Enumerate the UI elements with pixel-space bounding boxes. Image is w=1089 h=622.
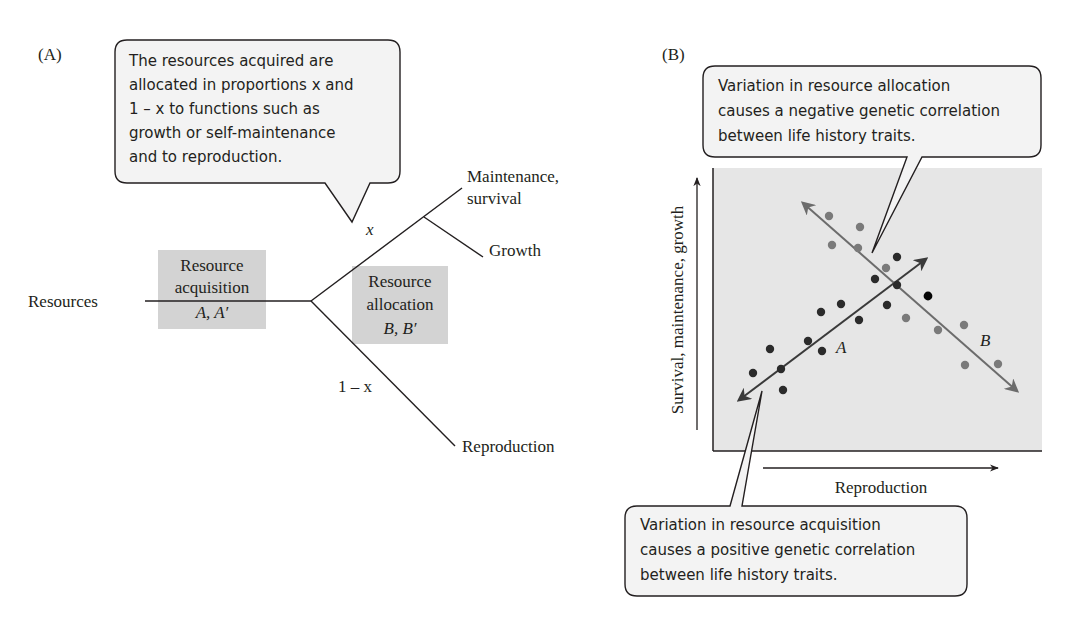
arrow-b-label: B <box>980 331 991 350</box>
plot-area <box>713 168 1042 451</box>
panel-b-label: (B) <box>662 45 685 64</box>
data-point <box>893 281 901 289</box>
callout-line: between life history traits. <box>718 127 915 145</box>
panel-a-label: (A) <box>38 45 62 64</box>
data-point <box>893 253 901 261</box>
figure-canvas: (A) The resources acquired are allocated… <box>0 0 1089 622</box>
callout-line: growth or self-maintenance <box>129 124 335 142</box>
survival-label: survival <box>467 189 522 208</box>
acquisition-box-line: Resource <box>180 256 243 275</box>
data-point <box>779 386 787 394</box>
data-point <box>902 314 910 322</box>
resources-label: Resources <box>28 292 98 311</box>
data-point <box>828 241 836 249</box>
reproduction-label: Reproduction <box>462 437 555 456</box>
callout-line: causes a negative genetic correlation <box>718 102 1000 120</box>
callout-line: causes a positive genetic correlation <box>640 541 915 559</box>
data-point <box>825 212 833 220</box>
panel-a: (A) The resources acquired are allocated… <box>28 40 559 456</box>
growth-label: Growth <box>489 241 541 260</box>
acquisition-box-line: acquisition <box>175 278 250 297</box>
data-point <box>871 275 879 283</box>
allocation-box-line: Resource <box>368 272 431 291</box>
callout-line: 1 – x to functions such as <box>129 100 320 118</box>
data-point-black <box>924 292 933 301</box>
data-point <box>818 347 826 355</box>
callout-line: Variation in resource allocation <box>718 77 950 95</box>
y-axis-label: Survival, maintenance, growth <box>668 205 687 414</box>
callout-line: The resources acquired are <box>128 52 333 70</box>
data-point <box>837 300 845 308</box>
allocation-box-line: allocation <box>366 295 434 314</box>
arrow-a-label: A <box>835 338 847 357</box>
callout-allocation-proportions: The resources acquired are allocated in … <box>115 40 400 222</box>
data-point <box>777 365 785 373</box>
callout-line: Variation in resource acquisition <box>640 516 881 534</box>
data-point <box>766 345 774 353</box>
acquisition-box-genes: A, A′ <box>195 303 229 322</box>
data-point <box>749 369 757 377</box>
allocation-box-genes: B, B′ <box>384 319 417 338</box>
data-point <box>817 308 825 316</box>
upper-branch-proportion: x <box>365 220 374 239</box>
callout-line: allocated in proportions x and <box>129 76 354 94</box>
data-point <box>960 321 968 329</box>
data-point <box>804 337 812 345</box>
data-point <box>883 301 891 309</box>
lower-branch-proportion: 1 – x <box>338 377 373 396</box>
data-point <box>961 361 969 369</box>
data-point <box>882 264 890 272</box>
growth-branch-line <box>424 217 483 257</box>
data-point <box>855 316 863 324</box>
figure: (A) The resources acquired are allocated… <box>0 0 1089 622</box>
callout-line: and to reproduction. <box>129 148 282 166</box>
callout-line: between life history traits. <box>640 566 837 584</box>
data-point <box>934 326 942 334</box>
data-point <box>994 360 1002 368</box>
panel-b: (B) Survival, maintenance, growth Reprod… <box>625 45 1042 596</box>
data-point <box>856 223 864 231</box>
data-point <box>854 244 862 252</box>
maintenance-label: Maintenance, <box>467 167 559 186</box>
x-axis-label: Reproduction <box>835 478 928 497</box>
